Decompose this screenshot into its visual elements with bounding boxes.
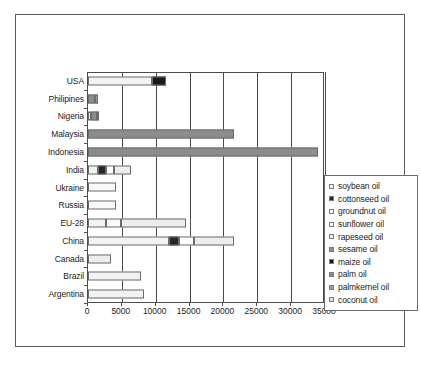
bar-segment [88, 147, 318, 156]
bar-segment [169, 236, 178, 245]
bar-segment [106, 219, 122, 228]
y-axis-category-label: Indonesia [34, 147, 84, 157]
y-axis-category-label: India [34, 165, 84, 175]
legend-item[interactable]: soybean oil [329, 180, 414, 193]
y-axis-labels: USAPhilipinesNigeriaMalaysiaIndonesiaInd… [34, 72, 84, 303]
bar-segment [88, 290, 144, 299]
bar-row [88, 267, 324, 285]
bar-segment [88, 165, 98, 174]
legend-item[interactable]: maize oil [329, 256, 414, 269]
y-axis-category-label: Ukraine [34, 183, 84, 193]
legend-item-label: palmkernel oil [338, 282, 389, 292]
y-axis-category-label: Argentina [34, 289, 84, 299]
legend-item-label: maize oil [338, 257, 371, 267]
y-axis-tick [84, 125, 87, 126]
y-axis-category-label: EU-28 [34, 218, 84, 228]
y-axis-tick [84, 250, 87, 251]
legend-item-label: rapeseed oil [338, 232, 383, 242]
y-axis-category-label: Russia [34, 200, 84, 210]
y-axis-category-label: USA [34, 76, 84, 86]
bar-row [88, 196, 324, 214]
legend-item[interactable]: groundnut oil [329, 205, 414, 218]
y-axis-category-label: Canada [34, 254, 84, 264]
legend-swatch-icon [329, 285, 334, 290]
bar-segment [179, 236, 195, 245]
x-axis-tick [222, 303, 223, 306]
x-axis-tick [121, 303, 122, 306]
bar-segment [152, 76, 166, 85]
x-axis-tick-label: 5000 [111, 306, 130, 316]
legend-swatch-icon [329, 222, 334, 227]
legend-swatch-icon [329, 247, 334, 252]
legend-item[interactable]: sunflower oil [329, 218, 414, 231]
y-axis-category-label: Nigeria [34, 111, 84, 121]
legend-item[interactable]: palm oil [329, 268, 414, 281]
bar-segment [98, 165, 106, 174]
legend-item[interactable]: rapeseed oil [329, 230, 414, 243]
y-axis-category-label: Brazil [34, 271, 84, 281]
legend-item-label: sunflower oil [338, 219, 384, 229]
chart-frame: USAPhilipinesNigeriaMalaysiaIndonesiaInd… [15, 14, 405, 347]
legend-item-label: palm oil [338, 269, 367, 279]
bar-segment [97, 112, 99, 121]
legend-item-label: groundnut oil [338, 206, 386, 216]
y-axis-tick [84, 179, 87, 180]
x-axis-tick [256, 303, 257, 306]
legend-item-label: coconut oil [338, 295, 378, 305]
legend-item[interactable]: sesame oil [329, 243, 414, 256]
bar-row [88, 179, 324, 197]
y-axis-tick [84, 232, 87, 233]
x-axis-tick-label: 10000 [143, 306, 167, 316]
x-axis-tick-label: 30000 [278, 306, 302, 316]
bar-segment [88, 130, 234, 139]
y-axis-tick [84, 108, 87, 109]
y-axis-category-label: China [34, 236, 84, 246]
bar-segment [114, 165, 130, 174]
legend-swatch-icon [329, 184, 334, 189]
bar-rows [88, 72, 324, 302]
y-axis-tick [84, 161, 87, 162]
legend-swatch-icon [329, 259, 334, 264]
bar-segment [88, 94, 95, 103]
bar-segment [88, 183, 116, 192]
x-axis-tick [290, 303, 291, 306]
bar-segment [194, 236, 233, 245]
bar-row [88, 125, 324, 143]
bar-segment [88, 254, 111, 263]
x-axis-tick [87, 303, 88, 306]
y-axis-tick [84, 196, 87, 197]
bar-segment [88, 76, 152, 85]
y-axis-category-label: Malaysia [34, 129, 84, 139]
bar-row [88, 108, 324, 126]
legend-item[interactable]: palmkernel oil [329, 281, 414, 294]
x-axis-tick-label: 15000 [177, 306, 201, 316]
legend-item-label: cottonseed oil [338, 194, 389, 204]
plot-area [87, 72, 324, 303]
legend-item-label: sesame oil [338, 244, 378, 254]
y-axis-tick [84, 90, 87, 91]
bar-segment [88, 219, 106, 228]
bar-row [88, 143, 324, 161]
bar-row [88, 232, 324, 250]
legend-item[interactable]: coconut oil [329, 293, 414, 306]
x-axis-tick [155, 303, 156, 306]
bar-row [88, 90, 324, 108]
x-axis-tick-label: 0 [85, 306, 90, 316]
y-axis-tick [84, 285, 87, 286]
bar-segment [88, 272, 141, 281]
bar-row [88, 285, 324, 303]
bar-row [88, 161, 324, 179]
bar-segment [95, 94, 98, 103]
bar-segment [121, 219, 186, 228]
y-axis-tick [84, 267, 87, 268]
legend-swatch-icon [329, 297, 334, 302]
bar-segment [106, 165, 114, 174]
x-axis-tick [189, 303, 190, 306]
legend-swatch-icon [329, 209, 334, 214]
legend-item-label: soybean oil [338, 181, 380, 191]
legend-item[interactable]: cottonseed oil [329, 193, 414, 206]
chart-legend: soybean oilcottonseed oilgroundnut oilsu… [324, 175, 418, 311]
bar-row [88, 72, 324, 90]
y-axis-tick [84, 214, 87, 215]
bar-row [88, 214, 324, 232]
